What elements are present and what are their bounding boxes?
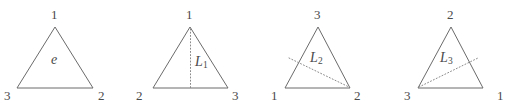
vertex-label-panel-1-top: 1 xyxy=(51,8,58,21)
triangle-symmetry-figure: 1 3 2 e 1 2 3 L1 3 1 2 L2 2 3 1 L3 xyxy=(0,0,511,111)
mirror-axis-label-panel-2: L1 xyxy=(195,55,208,71)
mirror-axis-label-panel-3-subscript: 2 xyxy=(318,56,323,66)
mirror-axis-label-panel-3-base: L xyxy=(310,50,318,65)
mirror-axis-label-panel-4-base: L xyxy=(440,50,448,65)
figure-canvas xyxy=(0,0,511,111)
vertex-label-panel-2-bottom-right: 3 xyxy=(232,89,239,102)
mirror-axis-label-panel-4: L3 xyxy=(440,51,453,67)
mirror-axis-label-panel-3: L2 xyxy=(310,51,323,67)
vertex-label-panel-4-bottom-left: 3 xyxy=(404,89,411,102)
vertex-label-panel-3-top: 3 xyxy=(314,8,321,21)
vertex-label-panel-2-top: 1 xyxy=(186,8,193,21)
vertex-label-panel-4-top: 2 xyxy=(447,8,454,21)
mirror-axis-label-panel-2-base: L xyxy=(195,54,203,69)
vertex-label-panel-3-bottom-left: 1 xyxy=(271,89,278,102)
vertex-label-panel-2-bottom-left: 2 xyxy=(136,89,143,102)
mirror-axis-label-panel-2-subscript: 1 xyxy=(203,60,208,70)
vertex-label-panel-1-bottom-left: 3 xyxy=(4,89,11,102)
vertex-label-panel-3-bottom-right: 2 xyxy=(354,89,361,102)
vertex-label-panel-4-bottom-right: 1 xyxy=(497,89,504,102)
mirror-axis-label-panel-4-subscript: 3 xyxy=(448,56,453,66)
vertex-label-panel-1-bottom-right: 2 xyxy=(98,89,105,102)
identity-element-label-panel-1: e xyxy=(51,53,57,67)
